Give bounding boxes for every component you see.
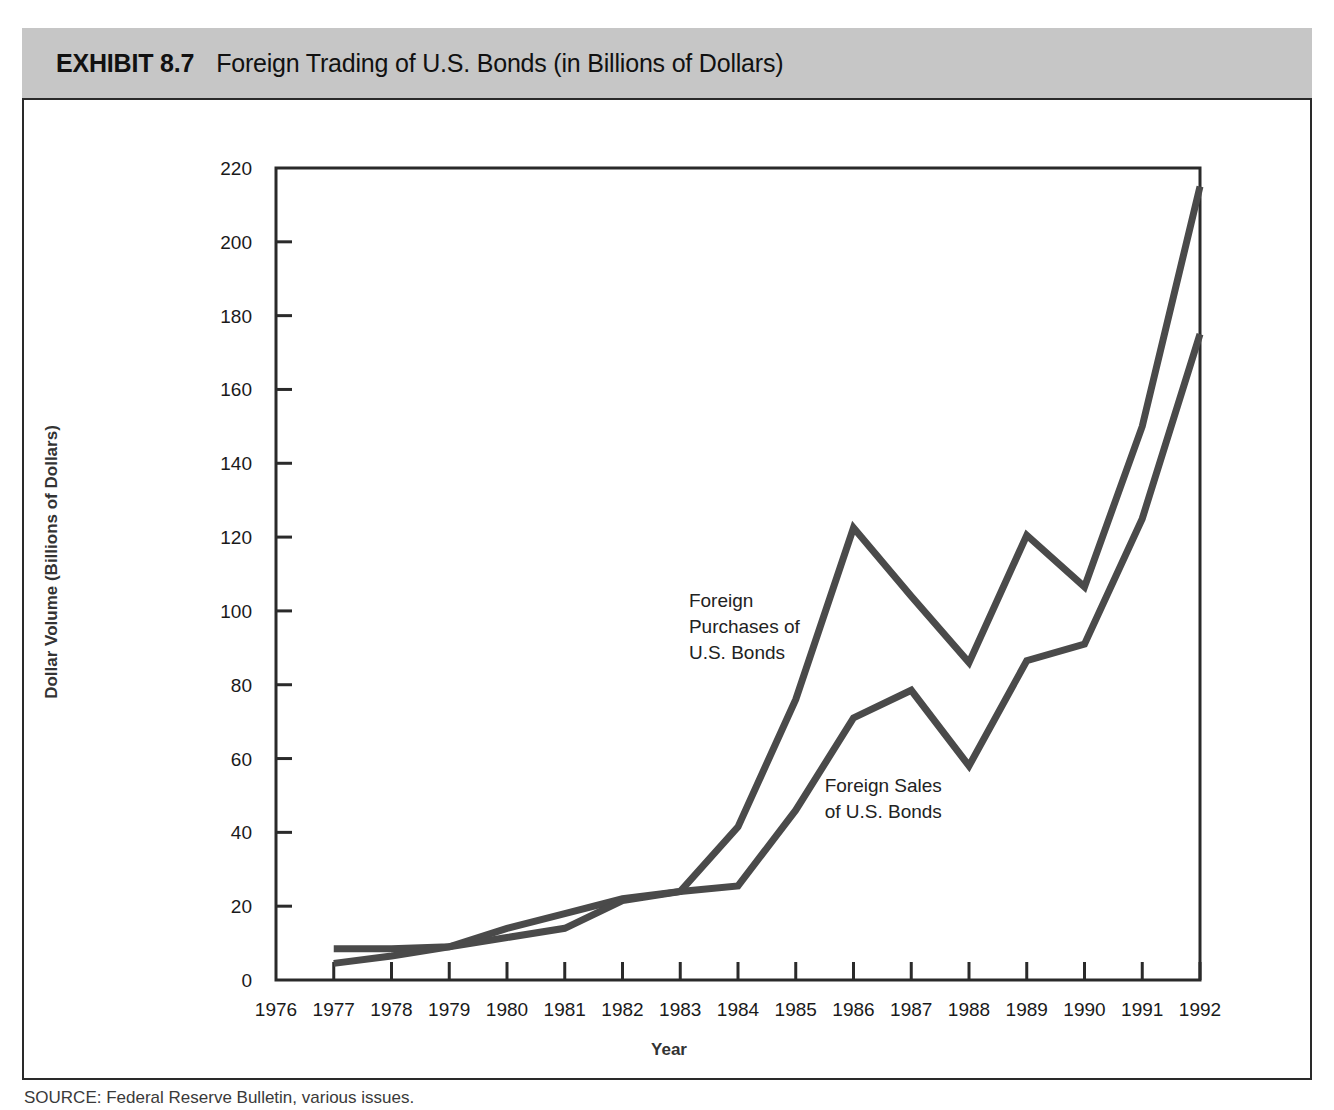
svg-text:1976: 1976 — [255, 999, 297, 1020]
svg-text:120: 120 — [220, 527, 252, 548]
exhibit-title: Foreign Trading of U.S. Bonds (in Billio… — [216, 49, 783, 78]
svg-text:U.S. Bonds: U.S. Bonds — [689, 642, 785, 663]
plot-wrap: 0204060801001201401601802002201976197719… — [24, 100, 1314, 1080]
y-axis-title: Dollar Volume (Billions of Dollars) — [42, 382, 62, 742]
svg-text:1987: 1987 — [890, 999, 932, 1020]
chart-frame: 0204060801001201401601802002201976197719… — [22, 100, 1312, 1080]
exhibit-number: EXHIBIT 8.7 — [56, 49, 194, 78]
svg-text:Foreign Sales: Foreign Sales — [825, 775, 942, 796]
svg-text:1979: 1979 — [428, 999, 470, 1020]
svg-text:Foreign: Foreign — [689, 590, 753, 611]
svg-text:1980: 1980 — [486, 999, 528, 1020]
x-axis-title: Year — [24, 1040, 1314, 1060]
chart-series-lines — [334, 186, 1200, 963]
svg-text:60: 60 — [231, 749, 252, 770]
svg-text:1991: 1991 — [1121, 999, 1163, 1020]
svg-text:160: 160 — [220, 379, 252, 400]
svg-text:1985: 1985 — [775, 999, 817, 1020]
exhibit-header: EXHIBIT 8.7 Foreign Trading of U.S. Bond… — [22, 28, 1312, 100]
svg-text:0: 0 — [241, 970, 252, 991]
svg-text:20: 20 — [231, 896, 252, 917]
chart-axes — [276, 168, 1200, 980]
line-chart-svg: 0204060801001201401601802002201976197719… — [24, 100, 1314, 1080]
svg-text:1986: 1986 — [832, 999, 874, 1020]
svg-text:1978: 1978 — [370, 999, 412, 1020]
source-text: SOURCE: Federal Reserve Bulletin, variou… — [24, 1088, 414, 1107]
svg-text:100: 100 — [220, 601, 252, 622]
source-note: SOURCE: Federal Reserve Bulletin, variou… — [24, 1088, 414, 1110]
svg-text:200: 200 — [220, 232, 252, 253]
svg-text:1981: 1981 — [544, 999, 586, 1020]
svg-text:Purchases of: Purchases of — [689, 616, 801, 637]
svg-text:180: 180 — [220, 306, 252, 327]
svg-text:220: 220 — [220, 158, 252, 179]
svg-text:140: 140 — [220, 453, 252, 474]
svg-text:80: 80 — [231, 675, 252, 696]
svg-text:1982: 1982 — [601, 999, 643, 1020]
exhibit-container: EXHIBIT 8.7 Foreign Trading of U.S. Bond… — [22, 28, 1312, 1080]
svg-text:1989: 1989 — [1006, 999, 1048, 1020]
svg-text:1990: 1990 — [1063, 999, 1105, 1020]
chart-annotations: ForeignPurchases ofU.S. BondsForeign Sal… — [689, 590, 942, 822]
svg-text:1992: 1992 — [1179, 999, 1221, 1020]
svg-text:1983: 1983 — [659, 999, 701, 1020]
svg-text:40: 40 — [231, 822, 252, 843]
svg-text:1977: 1977 — [313, 999, 355, 1020]
svg-text:1984: 1984 — [717, 999, 760, 1020]
svg-text:of U.S. Bonds: of U.S. Bonds — [825, 801, 942, 822]
svg-text:1988: 1988 — [948, 999, 990, 1020]
